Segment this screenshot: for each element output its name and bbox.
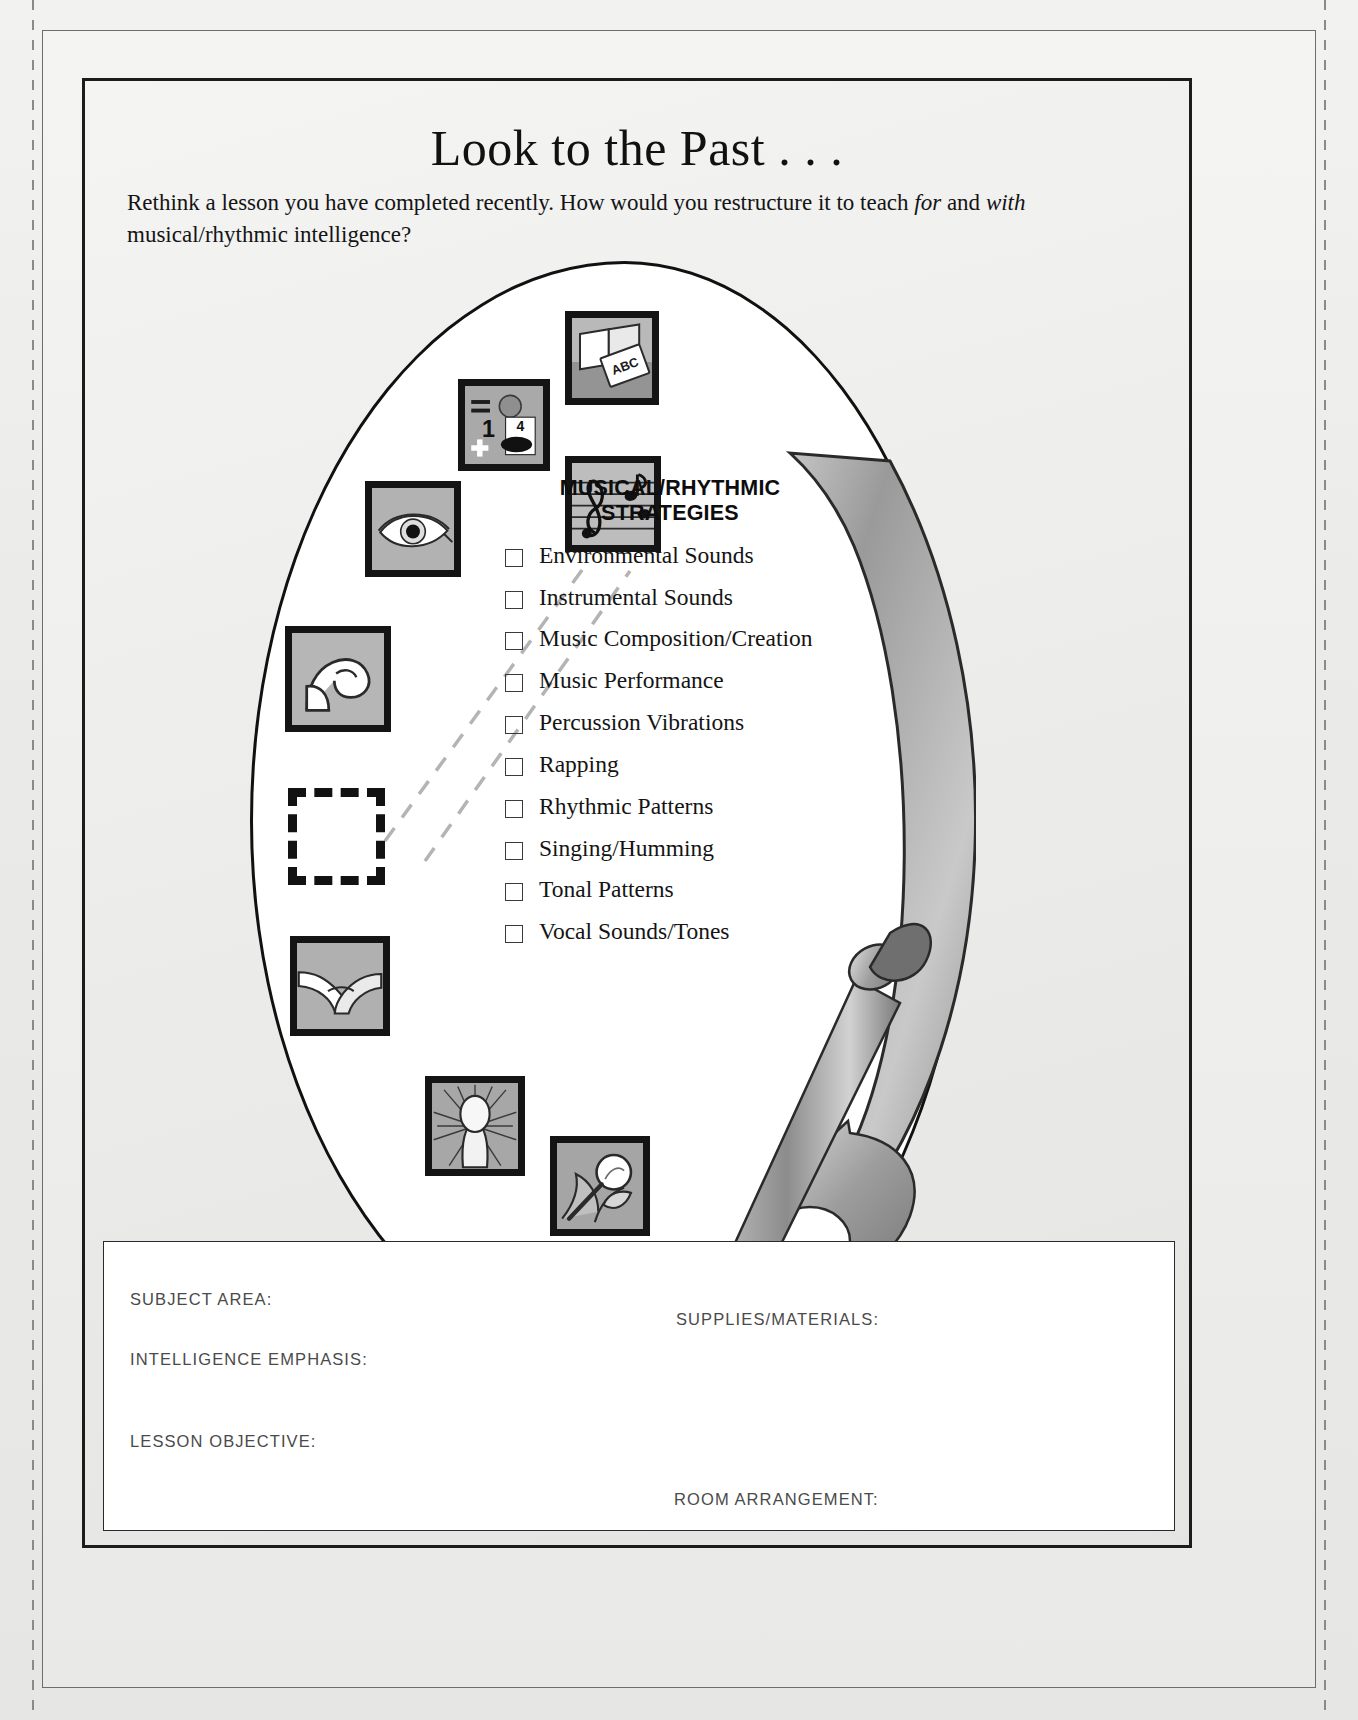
- instructions-text-a: Rethink a lesson you have completed rece…: [127, 190, 914, 215]
- strategy-label: Instrumental Sounds: [539, 585, 733, 611]
- head-radiant-tile: [425, 1076, 525, 1176]
- worksheet-frame: Look to the Past . . . Rethink a lesson …: [82, 78, 1192, 1548]
- svg-text:4: 4: [516, 418, 524, 434]
- strategy-label: Vocal Sounds/Tones: [539, 919, 730, 945]
- list-item[interactable]: Vocal Sounds/Tones: [505, 919, 835, 945]
- list-item[interactable]: Tonal Patterns: [505, 877, 835, 903]
- svg-text:1: 1: [482, 416, 495, 442]
- strategy-label: Singing/Humming: [539, 836, 714, 862]
- checkbox-icon[interactable]: [505, 549, 523, 567]
- page-background: Look to the Past . . . Rethink a lesson …: [0, 0, 1358, 1720]
- subject-area-label: SUBJECT AREA:: [130, 1290, 272, 1309]
- intelligence-emphasis-label: INTELLIGENCE EMPHASIS:: [130, 1350, 368, 1369]
- checkbox-icon[interactable]: [505, 758, 523, 776]
- instructions-text-c: musical/rhythmic intelligence?: [127, 222, 411, 247]
- list-item[interactable]: Environmental Sounds: [505, 543, 835, 569]
- lesson-objective-label: LESSON OBJECTIVE:: [130, 1432, 317, 1451]
- list-item[interactable]: Music Performance: [505, 668, 835, 694]
- checkbox-icon[interactable]: [505, 925, 523, 943]
- strategies-panel: MUSICAL/RHYTHMIC STRATEGIES Environmenta…: [505, 476, 835, 961]
- list-item[interactable]: Rhythmic Patterns: [505, 794, 835, 820]
- list-item[interactable]: Rapping: [505, 752, 835, 778]
- checkbox-icon[interactable]: [505, 842, 523, 860]
- perforation-right: [1324, 0, 1326, 1720]
- instructions-text-b: and: [941, 190, 986, 215]
- handshake-tile: [290, 936, 390, 1036]
- list-item[interactable]: Music Composition/Creation: [505, 626, 835, 652]
- nature-magnifier-tile: [550, 1136, 650, 1236]
- strategies-heading: MUSICAL/RHYTHMIC STRATEGIES: [505, 476, 835, 527]
- strategy-label: Percussion Vibrations: [539, 710, 744, 736]
- flexed-arm-tile: [285, 626, 391, 732]
- eye-tile: [365, 481, 461, 577]
- instructions-emphasis-for: for: [914, 190, 941, 215]
- strategies-heading-line2: STRATEGIES: [601, 501, 739, 525]
- list-item[interactable]: Instrumental Sounds: [505, 585, 835, 611]
- empty-dashed-slot: [288, 788, 385, 885]
- strategy-label: Music Composition/Creation: [539, 626, 813, 652]
- checkbox-icon[interactable]: [505, 632, 523, 650]
- lesson-plan-form[interactable]: SUBJECT AREA: INTELLIGENCE EMPHASIS: LES…: [103, 1241, 1175, 1531]
- list-item[interactable]: Percussion Vibrations: [505, 710, 835, 736]
- room-arrangement-label: ROOM ARRANGEMENT:: [674, 1490, 879, 1509]
- checkbox-icon[interactable]: [505, 800, 523, 818]
- perforation-left: [32, 0, 34, 1720]
- checkbox-icon[interactable]: [505, 716, 523, 734]
- strategy-label: Music Performance: [539, 668, 724, 694]
- book-abc-tile: ABC: [565, 311, 659, 405]
- supplies-materials-label: SUPPLIES/MATERIALS:: [676, 1310, 879, 1329]
- strategy-label: Rapping: [539, 752, 619, 778]
- instructions-paragraph: Rethink a lesson you have completed rece…: [127, 187, 1151, 250]
- strategy-label: Rhythmic Patterns: [539, 794, 713, 820]
- strategies-heading-line1: MUSICAL/RHYTHMIC: [560, 476, 781, 500]
- checkbox-icon[interactable]: [505, 883, 523, 901]
- page-title: Look to the Past . . .: [85, 119, 1189, 177]
- checkbox-icon[interactable]: [505, 674, 523, 692]
- strategy-label: Tonal Patterns: [539, 877, 674, 903]
- strategy-label: Environmental Sounds: [539, 543, 754, 569]
- list-item[interactable]: Singing/Humming: [505, 836, 835, 862]
- checkbox-icon[interactable]: [505, 591, 523, 609]
- logical-math-tile: 1 4: [458, 379, 550, 471]
- instructions-emphasis-with: with: [986, 190, 1026, 215]
